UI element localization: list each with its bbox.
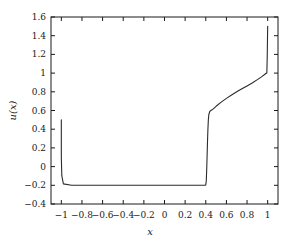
- y-tick-label: 1: [8, 69, 46, 78]
- x-tick-label: 1: [265, 211, 271, 220]
- y-tick-label: 1.4: [8, 31, 46, 40]
- chart-figure: −0.4−0.200.20.40.60.811.21.41.6 −1−0.8−0…: [0, 0, 300, 246]
- x-tick-label: 0.4: [199, 211, 213, 220]
- x-tick-label: −1: [55, 211, 68, 220]
- x-axis-label: x: [0, 226, 300, 237]
- y-tick-label: −0.2: [8, 181, 46, 190]
- x-tick-label: −0.8: [71, 211, 93, 220]
- y-tick-label: 0: [8, 162, 46, 171]
- y-tick-label: 1.6: [8, 13, 46, 22]
- x-tick-label: −0.4: [112, 211, 134, 220]
- plot-background: [51, 17, 278, 204]
- x-tick-label: 0.8: [240, 211, 254, 220]
- x-tick-label: 0.2: [178, 211, 192, 220]
- x-tick-label: −0.2: [133, 211, 155, 220]
- x-tick-label: 0: [162, 211, 168, 220]
- y-tick-label: 0.2: [8, 143, 46, 152]
- y-tick-label: −0.4: [8, 200, 46, 209]
- y-tick-label: 1.2: [8, 50, 46, 59]
- y-axis-label: u(x): [7, 90, 18, 130]
- x-tick-label: −0.6: [92, 211, 114, 220]
- x-tick-label: 0.6: [219, 211, 233, 220]
